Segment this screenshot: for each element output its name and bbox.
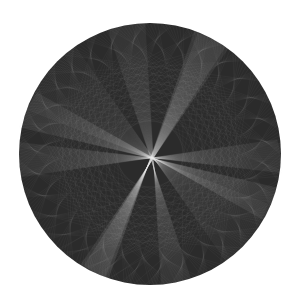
string-art-image [0, 0, 300, 306]
